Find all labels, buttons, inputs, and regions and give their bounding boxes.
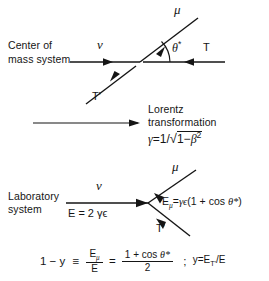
cm-frame-label-line2: mass system bbox=[8, 54, 70, 66]
lab-neutrino-label: ν bbox=[96, 179, 102, 194]
cm-neutrino-line bbox=[70, 58, 140, 66]
gamma-radical-group: √1−β2 bbox=[170, 131, 203, 147]
bottom-equals: = bbox=[106, 255, 119, 267]
lab-incoming-energy: E = 2 γϵ bbox=[68, 207, 107, 219]
gamma-equals: = bbox=[153, 132, 160, 146]
bottom-frac2: 1 + cos θ* 2 bbox=[122, 249, 173, 272]
cm-theta-star: * bbox=[178, 39, 181, 49]
radicand: 1−β2 bbox=[177, 131, 202, 146]
lorentz-label-line2: transformation bbox=[148, 117, 217, 129]
cm-T-label: T bbox=[203, 41, 210, 53]
lab-tprime-label: T' bbox=[156, 222, 165, 234]
bottom-frac1: Eμ E bbox=[86, 248, 102, 274]
lab-muon-label: μ bbox=[172, 160, 179, 175]
bottom-frac2-den: 2 bbox=[122, 262, 173, 273]
bottom-frac2-num-prefix: 1 + cos bbox=[125, 249, 160, 260]
cm-T-line bbox=[143, 58, 225, 66]
bottom-separator: ; bbox=[176, 255, 189, 267]
lorentz-arrow bbox=[33, 120, 140, 127]
cm-angle-label: θ* bbox=[172, 40, 181, 55]
bottom-frac2-num: 1 + cos θ* bbox=[122, 249, 173, 261]
radical-sign: √ bbox=[170, 131, 177, 146]
muon-energy-theta-star: θ* bbox=[228, 196, 238, 207]
cm-tprime-label: T' bbox=[92, 90, 101, 102]
bottom-rhs-den: E bbox=[219, 254, 226, 265]
muon-energy-E: E bbox=[162, 195, 169, 207]
bottom-frac2-num-theta: θ* bbox=[160, 249, 170, 260]
bottom-equation: 1 − y ≡ Eμ E = 1 + cos θ* 2 ; y=ET'/E bbox=[40, 248, 225, 274]
bottom-frac1-num: Eμ bbox=[86, 248, 102, 263]
muon-energy-one-plus-cos: 1 + cos bbox=[191, 195, 228, 207]
lab-neutrino-line bbox=[66, 199, 148, 207]
cm-neutrino-label: ν bbox=[97, 38, 103, 53]
cm-muon-label: μ bbox=[174, 3, 181, 18]
bottom-lhs: 1 − y bbox=[40, 255, 65, 267]
beta-exponent: 2 bbox=[197, 130, 202, 140]
lab-frame-label-line1: Laboratory bbox=[8, 191, 59, 203]
lab-incoming-energy-text: E = 2 γϵ bbox=[68, 207, 107, 219]
bottom-identity: ≡ bbox=[68, 255, 83, 267]
radicand-minus: − bbox=[184, 132, 191, 146]
lab-frame-label-line2: system bbox=[8, 204, 42, 216]
radicand-one: 1 bbox=[177, 132, 184, 146]
bottom-frac1-num-mu: μ bbox=[96, 254, 100, 262]
lorentz-gamma-formula: γ=1/ √1−β2 bbox=[148, 131, 202, 147]
bottom-frac1-den: E bbox=[86, 263, 102, 274]
muon-energy-paren-close: ) bbox=[238, 195, 242, 207]
lorentz-label-line1: Lorentz bbox=[148, 104, 184, 116]
bottom-rhs: y=ET'/E bbox=[193, 254, 226, 265]
lab-muon-energy-equation: Eμ=γϵ(1 + cos θ*) bbox=[162, 196, 242, 211]
cm-frame-label-line1: Center of bbox=[8, 40, 52, 52]
